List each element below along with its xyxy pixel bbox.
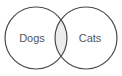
venn-diagram-svg: Dogs Cats (0, 0, 122, 76)
set-label-cats: Cats (79, 32, 102, 44)
venn-diagram: Dogs Cats (0, 0, 122, 76)
set-label-dogs: Dogs (19, 32, 45, 44)
